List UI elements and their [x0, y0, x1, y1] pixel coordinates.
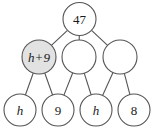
- node-label-bot-3: h: [93, 103, 100, 118]
- edge-top-to-mid-right: [92, 30, 108, 45]
- edge-mid-left-to-bot-2: [45, 73, 53, 95]
- node-mid-right: [103, 40, 137, 74]
- nodes-layer: 47h+9h9h8: [4, 3, 150, 127]
- node-mid-left: h+9: [22, 40, 56, 74]
- pyramid-diagram-canvas: 47h+9h9h8: [0, 0, 154, 130]
- node-circle-mid-right: [103, 40, 137, 74]
- node-label-bot-2: 9: [55, 103, 62, 118]
- edge-mid-right-to-bot-3: [103, 72, 113, 95]
- node-bot-4: 8: [118, 94, 150, 126]
- edge-mid-right-to-bot-4: [124, 73, 130, 94]
- edge-mid-center-to-bot-3: [84, 73, 91, 95]
- node-top: 47: [63, 3, 96, 36]
- node-label-top: 47: [73, 12, 87, 27]
- node-label-mid-left: h+9: [28, 50, 50, 65]
- edge-top-to-mid-left: [51, 30, 67, 45]
- node-circle-mid-center: [62, 40, 96, 74]
- node-bot-1: h: [4, 94, 36, 126]
- pyramid-diagram: 47h+9h9h8: [0, 0, 154, 130]
- edge-mid-center-to-bot-2: [64, 73, 73, 95]
- node-bot-2: 9: [42, 94, 74, 126]
- node-bot-3: h: [80, 94, 112, 126]
- node-label-bot-4: 8: [131, 103, 138, 118]
- node-label-bot-1: h: [17, 103, 24, 118]
- node-mid-center: [62, 40, 96, 74]
- edge-mid-left-to-bot-1: [25, 73, 33, 95]
